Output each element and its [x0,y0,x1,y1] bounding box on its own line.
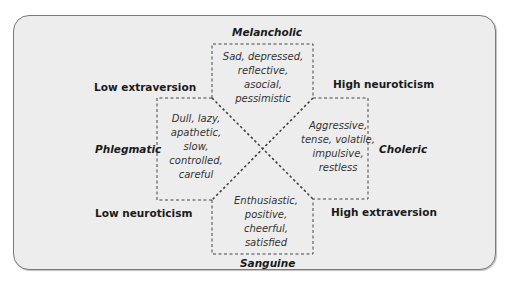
trait-line: cheerful, [214,222,318,236]
axis-low-extraversion: Low extraversion [94,81,196,93]
melancholic-traits: Sad, depressed, reflective, asocial, pes… [214,50,312,106]
trait-line: impulsive, [290,147,386,161]
axis-high-neuroticism: High neuroticism [333,78,434,90]
dashed-outline-diagram [0,0,511,299]
trait-line: reflective, [214,64,312,78]
trait-line: satisfied [214,236,318,250]
phlegmatic-label: Phlegmatic [95,143,161,155]
trait-line: Aggressive, [290,119,386,133]
melancholic-label: Melancholic [232,26,302,38]
trait-line: slow, [158,140,234,154]
trait-line: controlled, [158,154,234,168]
trait-line: asocial, [214,78,312,92]
choleric-label: Choleric [379,143,427,155]
trait-line: careful [158,168,234,182]
choleric-traits: Aggressive, tense, volatile, impulsive, … [290,119,386,175]
sanguine-traits: Enthusiastic, positive, cheerful, satisf… [214,194,318,250]
trait-line: Enthusiastic, [214,194,318,208]
phlegmatic-traits: Dull, lazy, apathetic, slow, controlled,… [158,112,234,182]
trait-line: apathetic, [158,126,234,140]
axis-low-neuroticism: Low neuroticism [95,207,192,219]
trait-line: Sad, depressed, [214,50,312,64]
sanguine-label: Sanguine [240,257,295,269]
axis-high-extraversion: High extraversion [331,206,437,218]
trait-line: positive, [214,208,318,222]
trait-line: restless [290,161,386,175]
trait-line: pessimistic [214,92,312,106]
trait-line: Dull, lazy, [158,112,234,126]
trait-line: tense, volatile, [290,133,386,147]
